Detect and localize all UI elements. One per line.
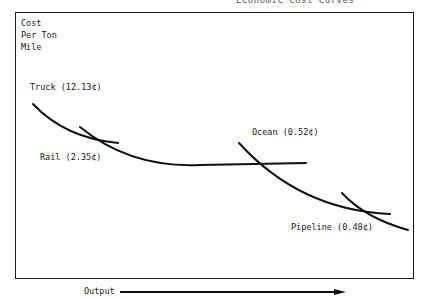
cost-curves <box>0 0 425 298</box>
ocean-curve <box>239 143 390 214</box>
output-arrow <box>120 289 346 295</box>
pipeline-label: Pipeline (0.48¢) <box>291 222 373 232</box>
truck-label: Truck (12.13¢) <box>30 82 102 92</box>
ocean-label: Ocean (0.52¢) <box>252 127 319 137</box>
rail-label: Rail (2.35¢) <box>40 152 101 162</box>
truck-curve <box>33 104 118 143</box>
x-axis-label: Output <box>84 286 115 296</box>
